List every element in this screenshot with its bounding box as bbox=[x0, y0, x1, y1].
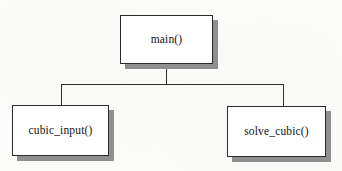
node-solve-cubic[interactable]: solve_cubic() bbox=[227, 106, 326, 157]
connector-horizontal-bus bbox=[61, 84, 284, 85]
node-main[interactable]: main() bbox=[120, 15, 213, 64]
node-solve-cubic-label: solve_cubic() bbox=[244, 126, 309, 138]
structure-chart-canvas: main() cubic_input() solve_cubic() bbox=[0, 0, 342, 171]
node-main-label: main() bbox=[151, 34, 183, 46]
connector-to-solve-cubic bbox=[283, 84, 284, 107]
node-cubic-input-label: cubic_input() bbox=[29, 125, 93, 137]
node-cubic-input[interactable]: cubic_input() bbox=[12, 105, 109, 156]
connector-to-cubic-input bbox=[61, 84, 62, 106]
